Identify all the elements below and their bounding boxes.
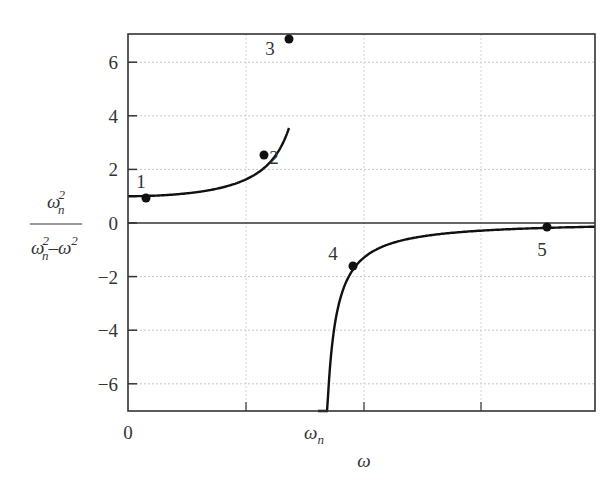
x-tick-label: 0 xyxy=(123,422,133,443)
point-label-3: 3 xyxy=(265,38,275,59)
data-point-4 xyxy=(349,262,358,271)
chart: 6420−2−4−60ωn 12345 ω2n ω2n–ω2 ω xyxy=(0,0,613,491)
y-tick-label: 4 xyxy=(109,106,119,127)
y-tick-label: 6 xyxy=(109,52,119,73)
data-point-2 xyxy=(260,151,269,160)
y-tick-label: −4 xyxy=(98,320,119,341)
y-label-numerator: ω2n xyxy=(47,187,65,217)
data-point-1 xyxy=(142,194,151,203)
point-label-1: 1 xyxy=(136,171,146,192)
y-tick-label: 2 xyxy=(109,159,119,180)
x-tick-label-wn: ωn xyxy=(304,422,324,447)
data-points: 12345 xyxy=(136,35,551,271)
data-point-5 xyxy=(543,223,552,232)
y-tick-label: 0 xyxy=(109,213,119,234)
y-tick-label: −2 xyxy=(98,267,118,288)
point-label-4: 4 xyxy=(328,243,338,264)
curve-below-resonance xyxy=(128,128,289,196)
y-label-denominator: ω2n–ω2 xyxy=(31,233,78,263)
x-axis-label: ω xyxy=(357,450,370,471)
point-label-2: 2 xyxy=(269,147,279,168)
y-axis-label: ω2n ω2n–ω2 xyxy=(30,187,82,263)
data-point-3 xyxy=(285,35,294,44)
point-label-5: 5 xyxy=(537,239,547,260)
curves xyxy=(128,128,595,411)
axis-ticks: 6420−2−4−60ωn xyxy=(98,52,481,447)
y-tick-label: −6 xyxy=(98,374,118,395)
